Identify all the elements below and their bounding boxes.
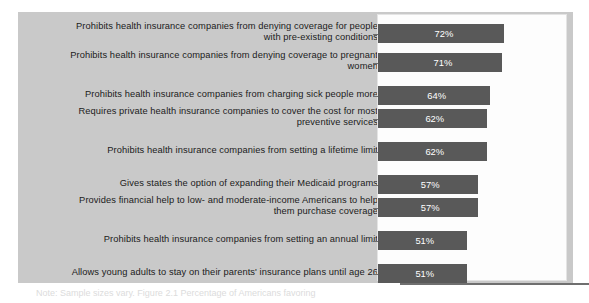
axis-tick <box>373 274 378 275</box>
axis-tick <box>373 241 378 242</box>
chart-figure-panel: Prohibits health insurance companies fro… <box>18 12 573 283</box>
bar-value-label: 57% <box>421 178 440 191</box>
bar-value-label: 72% <box>435 27 454 40</box>
category-label: Prohibits health insurance companies fro… <box>26 89 378 101</box>
axis-tick <box>373 34 378 35</box>
category-label: Prohibits health insurance companies fro… <box>26 21 378 44</box>
bar-row: 64% <box>378 86 566 105</box>
bar-row: 57% <box>378 175 566 194</box>
category-label: Prohibits health insurance companies fro… <box>26 145 378 157</box>
axis-tick <box>373 96 378 97</box>
bar-row: 62% <box>378 109 566 128</box>
category-label: Allows young adults to stay on their par… <box>26 267 378 279</box>
footnote-text: Note: Sample sizes vary. Figure 2.1 Perc… <box>36 288 315 298</box>
category-label: Prohibits health insurance companies fro… <box>26 234 378 246</box>
bar-row: 51% <box>378 231 566 250</box>
bar-value-label: 51% <box>415 234 434 247</box>
bar-row: 51% <box>378 264 566 283</box>
category-label: Provides financial help to low- and mode… <box>26 195 378 218</box>
bar-value-label: 51% <box>415 267 434 280</box>
bar-row: 57% <box>378 198 566 217</box>
category-label-column: Prohibits health insurance companies fro… <box>18 12 378 283</box>
axis-tick <box>373 185 378 186</box>
bar-row: 71% <box>378 53 566 72</box>
bar-value-label: 62% <box>425 112 444 125</box>
bar-value-label: 62% <box>425 145 444 158</box>
bar-value-label: 71% <box>434 56 453 69</box>
axis-tick <box>373 208 378 209</box>
category-label: Requires private health insurance compan… <box>26 106 378 129</box>
bottom-rule <box>400 283 589 285</box>
bar-value-label: 57% <box>421 201 440 214</box>
footnote-strip: Note: Sample sizes vary. Figure 2.1 Perc… <box>0 288 589 303</box>
plot-area: 72%71%64%62%62%57%57%51%51% <box>378 15 566 280</box>
axis-tick <box>373 119 378 120</box>
category-label: Prohibits health insurance companies fro… <box>26 50 378 73</box>
bar-value-label: 64% <box>427 89 446 102</box>
bar-row: 72% <box>378 24 566 43</box>
axis-tick <box>373 63 378 64</box>
axis-tick <box>373 152 378 153</box>
category-label: Gives states the option of expanding the… <box>26 178 378 190</box>
bar-row: 62% <box>378 142 566 161</box>
